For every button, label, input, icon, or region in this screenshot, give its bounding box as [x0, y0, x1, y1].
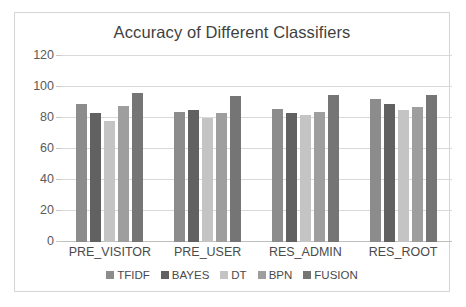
legend-label: DT	[231, 269, 246, 281]
chart-frame: Accuracy of Different Classifiers 020406…	[14, 12, 450, 292]
legend-label: BPN	[269, 269, 293, 281]
legend-item-bayes[interactable]: BAYES	[161, 269, 210, 281]
bar-group	[61, 56, 159, 242]
bar-tfidf-pre_visitor	[76, 104, 87, 242]
chart-title: Accuracy of Different Classifiers	[15, 23, 449, 42]
bar-dt-res_root	[398, 110, 409, 242]
legend-label: TFIDF	[117, 269, 150, 281]
legend-item-fusion[interactable]: FUSION	[303, 269, 357, 281]
bar-bayes-res_admin	[286, 113, 297, 242]
bar-tfidf-res_admin	[272, 109, 283, 242]
category-label: RES_ROOT	[369, 245, 438, 259]
bar-fusion-pre_visitor	[132, 93, 143, 242]
legend-swatch-icon	[258, 271, 266, 279]
bar-fusion-pre_user	[230, 96, 241, 242]
y-axis-tick-label: 80	[40, 110, 54, 124]
y-axis-tick-label: 100	[33, 79, 54, 93]
y-axis-tick-label: 60	[40, 141, 54, 155]
chart-legend: TFIDFBAYESDTBPNFUSION	[15, 269, 449, 281]
bar-bayes-pre_visitor	[90, 113, 101, 242]
legend-item-bpn[interactable]: BPN	[258, 269, 293, 281]
bar-bpn-pre_visitor	[118, 106, 129, 242]
legend-label: FUSION	[314, 269, 357, 281]
bar-bpn-pre_user	[216, 113, 227, 242]
bar-bpn-res_root	[412, 107, 423, 242]
bar-fusion-res_root	[426, 95, 437, 242]
bar-group	[354, 56, 452, 242]
legend-swatch-icon	[161, 271, 169, 279]
legend-item-tfidf[interactable]: TFIDF	[106, 269, 150, 281]
legend-label: BAYES	[172, 269, 210, 281]
bar-dt-pre_visitor	[104, 121, 115, 242]
bar-bayes-res_root	[384, 104, 395, 242]
category-label: PRE_USER	[174, 245, 241, 259]
category-label: RES_ADMIN	[269, 245, 342, 259]
bar-fusion-res_admin	[328, 95, 339, 242]
bar-group	[159, 56, 257, 242]
bar-bayes-pre_user	[188, 110, 199, 242]
bar-dt-res_admin	[300, 115, 311, 242]
y-axis-tick-label: 40	[40, 172, 54, 186]
category-axis: PRE_VISITORPRE_USERRES_ADMINRES_ROOT	[61, 245, 452, 263]
y-axis-tick-label: 120	[33, 48, 54, 62]
y-axis-tick-label: 20	[40, 203, 54, 217]
bar-tfidf-res_root	[370, 99, 381, 242]
bar-tfidf-pre_user	[174, 112, 185, 242]
y-axis-tick-label: 0	[47, 234, 54, 248]
plot-area: 020406080100120	[61, 56, 452, 242]
legend-swatch-icon	[303, 271, 311, 279]
legend-item-dt[interactable]: DT	[220, 269, 246, 281]
legend-swatch-icon	[220, 271, 228, 279]
bar-dt-pre_user	[202, 118, 213, 242]
bar-bpn-res_admin	[314, 112, 325, 242]
bar-groups	[61, 56, 452, 242]
legend-swatch-icon	[106, 271, 114, 279]
bar-group	[257, 56, 355, 242]
category-label: PRE_VISITOR	[69, 245, 151, 259]
